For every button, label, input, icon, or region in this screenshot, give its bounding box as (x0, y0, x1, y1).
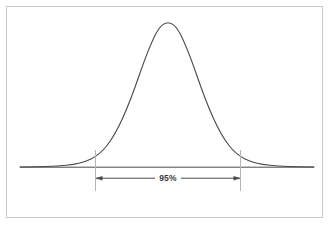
interval-arrowhead-right (234, 176, 241, 181)
figure-root: 95% (0, 0, 330, 226)
interval-percent-label: 95% (159, 173, 177, 183)
normal-distribution-plot: 95% (0, 0, 330, 226)
interval-arrowhead-left (96, 176, 103, 181)
bell-curve-path (20, 23, 314, 167)
